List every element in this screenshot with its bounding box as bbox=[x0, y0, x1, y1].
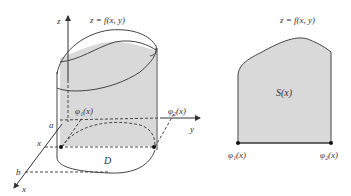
x-label: x bbox=[36, 138, 41, 148]
a-label: a bbox=[49, 120, 54, 130]
x-axis-label: x bbox=[21, 184, 26, 194]
region-d-label: D bbox=[103, 155, 112, 166]
phi1-point-right bbox=[236, 141, 240, 145]
phi1-point bbox=[59, 145, 63, 149]
left-3d-figure: z = f(x, y) z y x a b x φ₁(x) φ₂(x) D bbox=[14, 15, 200, 194]
cross-section-shaded bbox=[60, 42, 156, 146]
y-axis-label: y bbox=[189, 124, 194, 134]
phi1-label-right: φ₁(x) bbox=[228, 150, 246, 160]
phi2-dashed bbox=[155, 112, 175, 147]
x-axis bbox=[14, 124, 62, 188]
phi2-label: φ₂(x) bbox=[168, 106, 186, 116]
b-label: b bbox=[16, 167, 21, 177]
volume-diagram: z = f(x, y) z y x a b x φ₁(x) φ₂(x) D z … bbox=[0, 0, 351, 196]
right-surface-label: z = f(x, y) bbox=[279, 15, 315, 25]
area-label: S(x) bbox=[276, 87, 293, 99]
phi2-label-right: φ₂(x) bbox=[320, 150, 338, 160]
phi2-point bbox=[152, 145, 156, 149]
z-axis-label: z bbox=[56, 16, 61, 26]
phi2-point-right bbox=[329, 141, 333, 145]
left-surface-label: z = f(x, y) bbox=[89, 15, 125, 25]
phi1-label: φ₁(x) bbox=[75, 106, 93, 116]
right-cross-section-figure: z = f(x, y) S(x) φ₁(x) φ₂(x) bbox=[228, 15, 338, 160]
